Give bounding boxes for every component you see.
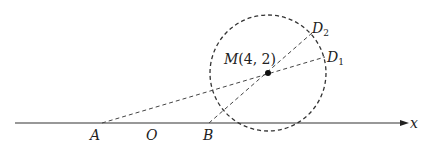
label-M: M(4, 2) <box>224 52 276 66</box>
label-O: O <box>146 128 157 142</box>
label-D2: D2 <box>312 21 329 35</box>
label-A: A <box>90 128 100 142</box>
segment-A-D1 <box>102 57 325 123</box>
label-D1: D1 <box>327 50 344 64</box>
label-B: B <box>203 128 213 142</box>
center-point-M <box>265 70 271 76</box>
segment-B-D2 <box>209 33 312 123</box>
geometry-diagram: M(4, 2) D2 D1 A O B x <box>0 0 423 149</box>
label-x-axis: x <box>410 116 418 130</box>
x-axis-arrow-icon <box>400 120 409 126</box>
